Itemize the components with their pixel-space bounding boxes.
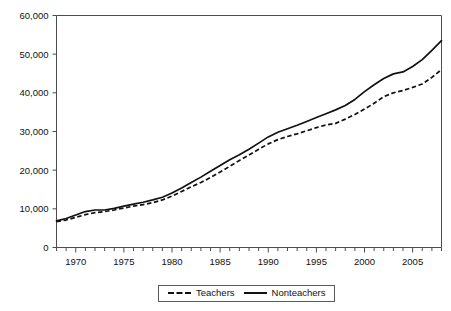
legend-label-nonteachers: Nonteachers (272, 288, 326, 298)
dashed-line-swatch-icon (168, 292, 191, 294)
legend-entry-teachers: Teachers (168, 288, 235, 298)
x-tick-label: 1975 (113, 256, 134, 267)
x-axis-tick-marks (57, 248, 442, 253)
x-tick-label: 2005 (402, 256, 423, 267)
x-tick-label: 1990 (258, 256, 279, 267)
series-line-teachers (57, 70, 442, 222)
series-line-nonteachers (57, 41, 442, 221)
x-axis-tick-labels: 19701975198019851990199520002005 (65, 256, 423, 267)
chart-legend: Teachers Nonteachers (158, 285, 335, 302)
plot-area: 010,00020,00030,00040,00050,00060,000 19… (0, 0, 451, 311)
axis-frame (57, 16, 442, 248)
x-tick-label: 2000 (354, 256, 375, 267)
y-tick-label: 10,000 (19, 203, 48, 214)
y-tick-label: 30,000 (19, 126, 48, 137)
y-tick-label: 50,000 (19, 49, 48, 60)
legend-entry-nonteachers: Nonteachers (244, 288, 326, 298)
x-tick-label: 1995 (306, 256, 327, 267)
y-tick-label: 40,000 (19, 87, 48, 98)
legend-label-teachers: Teachers (196, 288, 235, 298)
x-tick-label: 1970 (65, 256, 86, 267)
x-tick-label: 1985 (210, 256, 231, 267)
y-tick-label: 60,000 (19, 10, 48, 21)
solid-line-swatch-icon (244, 292, 267, 294)
y-tick-label: 0 (43, 242, 48, 253)
line-chart: 010,00020,00030,00040,00050,00060,000 19… (0, 0, 451, 311)
y-axis-tick-labels: 010,00020,00030,00040,00050,00060,000 (19, 10, 48, 253)
y-tick-label: 20,000 (19, 165, 48, 176)
x-tick-label: 1980 (161, 256, 182, 267)
y-axis-tick-marks (53, 16, 57, 248)
